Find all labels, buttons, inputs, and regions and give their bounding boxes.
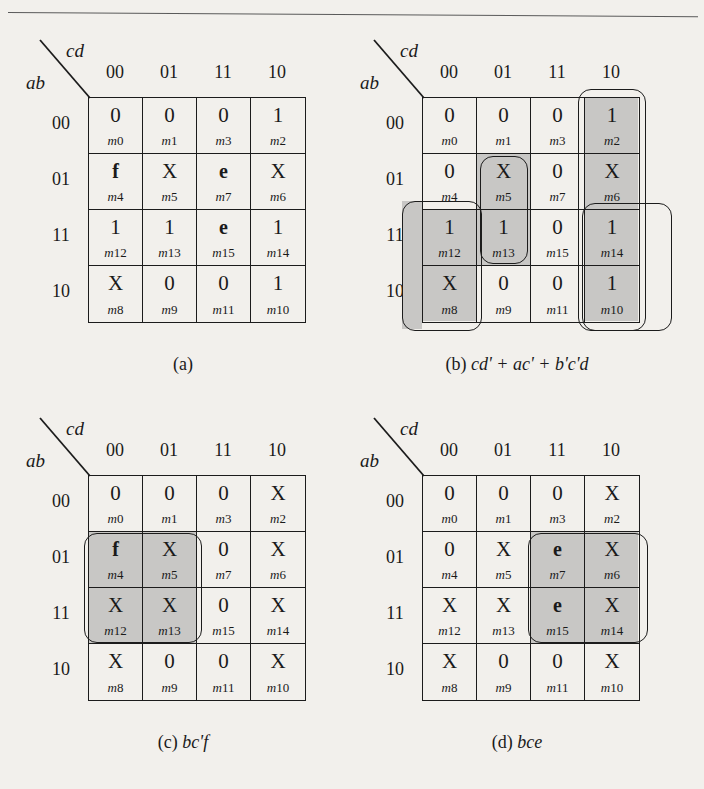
row-header-00: 00 [44,491,78,512]
figure-page: cdab00011110000111100m00m10m31m2fm4Xm5em… [0,0,704,789]
row-header-01: 01 [378,547,412,568]
group-outline-bce-quad [528,533,648,643]
column-header-01: 01 [142,62,196,83]
caption-a: (a) [18,354,348,375]
column-header-01: 01 [476,440,530,461]
row-header-10: 10 [378,659,412,680]
column-header-11: 11 [530,62,584,83]
column-header-11: 11 [196,62,250,83]
row-header-01: 01 [44,169,78,190]
caption-label: (c) [158,732,178,752]
caption-label: (d) [492,732,513,752]
caption-label: (b) [445,354,466,374]
column-header-11: 11 [196,440,250,461]
column-header-10: 10 [250,62,304,83]
row-header-11: 11 [378,603,412,624]
caption-expression: bce [517,732,542,752]
column-header-01: 01 [476,62,530,83]
caption-c: (c) bc'f [18,732,348,753]
row-header-01: 01 [44,547,78,568]
column-header-00: 00 [88,440,142,461]
group-outline-b-prime-c-prime-d-pair [582,203,672,331]
caption-d: (d) bce [352,732,682,753]
column-header-10: 10 [584,440,638,461]
row-header-00: 00 [378,491,412,512]
column-header-00: 00 [422,62,476,83]
column-header-10: 10 [584,62,638,83]
karnaugh-map-a: cdab00011110000111100m00m10m31m2fm4Xm5em… [18,22,348,402]
row-header-11: 11 [44,225,78,246]
row-header-00: 00 [44,113,78,134]
column-header-01: 01 [142,440,196,461]
group-shade-extension [402,201,422,329]
row-header-10: 10 [378,281,412,302]
caption-expression: cd' + ac' + b'c'd [471,354,589,374]
row-header-11: 11 [378,225,412,246]
caption-expression: bc'f [182,732,208,752]
row-header-01: 01 [378,169,412,190]
row-header-10: 10 [44,659,78,680]
column-header-10: 10 [250,440,304,461]
group-outline-bc-prime-f-quad [84,533,202,643]
caption-b: (b) cd' + ac' + b'c'd [352,354,682,375]
karnaugh-map-b: cdab00011110000111100m00m10m31m20m4Xm50m… [352,22,682,402]
caption-label: (a) [173,354,193,374]
row-header-10: 10 [44,281,78,302]
row-header-00: 00 [378,113,412,134]
group-outline-cd-prime-column [578,89,646,331]
karnaugh-map-c: cdab00011110000111100m00m10m3Xm2fm4Xm50m… [18,400,348,780]
group-outline-layer [422,475,638,699]
column-header-00: 00 [88,62,142,83]
group-outline-wrap-left-pair [402,201,482,331]
page-rule [8,12,698,17]
group-outline-ac-prime-pair [480,156,528,264]
column-header-00: 00 [422,440,476,461]
group-outline-layer [88,475,304,699]
group-outline-layer [88,97,304,321]
group-outline-layer [422,97,638,321]
column-header-11: 11 [530,440,584,461]
row-header-11: 11 [44,603,78,624]
karnaugh-map-d: cdab00011110000111100m00m10m3Xm20m4Xm5em… [352,400,682,780]
